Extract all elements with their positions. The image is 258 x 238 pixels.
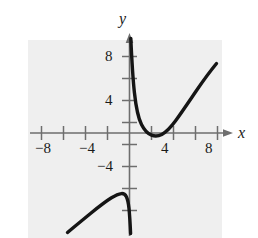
x-axis-label: x [238, 125, 245, 141]
y-axis-label: y [119, 11, 126, 27]
x-tick-label-pos4: 4 [161, 141, 169, 156]
curve-left-branch [68, 194, 131, 234]
x-tick-label-neg8: −8 [35, 141, 51, 156]
y-tick-label-pos8: 8 [105, 49, 113, 64]
y-tick-label-pos4: 4 [105, 93, 113, 108]
x-tick-label-pos8: 8 [205, 141, 213, 156]
curve-right-branch [131, 38, 217, 136]
x-tick-label-neg4: −4 [79, 141, 95, 156]
graph-figure: −8 −4 4 8 8 4 −4 y x [0, 0, 258, 238]
x-axis-arrow-icon [223, 129, 233, 137]
x-axis [30, 129, 233, 137]
y-tick-label-neg4: −4 [97, 159, 113, 174]
graph-canvas [0, 0, 258, 238]
